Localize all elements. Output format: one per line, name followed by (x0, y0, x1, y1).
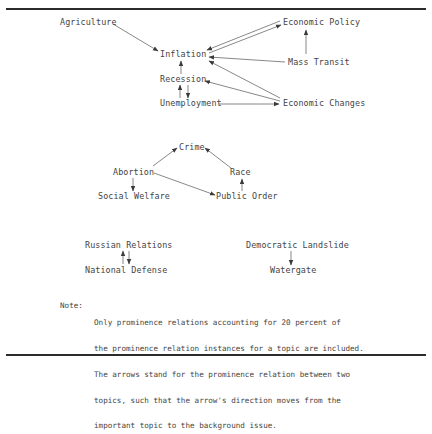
arrow-masstransit-inflation (209, 57, 285, 62)
arrow-inflation-economicpolicy (209, 25, 281, 53)
node-democratic-landslide: Democratic Landslide (246, 240, 349, 250)
node-unemployment: Unemployment (160, 98, 222, 108)
node-abortion: Abortion (113, 167, 154, 177)
node-agriculture: Agriculture (60, 17, 117, 27)
note-label: Note: (60, 302, 83, 311)
node-social-welfare: Social Welfare (98, 191, 170, 201)
node-public-order: Public Order (216, 191, 278, 201)
note-line: Only prominence relations accounting for… (94, 319, 364, 328)
note-line: important topic to the background issue. (94, 422, 364, 431)
note-line: topics, such that the arrow's direction … (94, 397, 364, 406)
node-crime: Crime (179, 142, 205, 152)
note-body: Only prominence relations accounting for… (94, 302, 364, 434)
node-russian-relations: Russian Relations (85, 240, 172, 250)
bottom-rule (6, 354, 426, 356)
node-mass-transit: Mass Transit (288, 57, 350, 67)
note-line: the prominence relation instances for a … (94, 345, 364, 354)
arrow-abortion-crime (153, 148, 177, 166)
note-line: The arrows stand for the prominence rela… (94, 371, 364, 380)
arrow-economicchanges-inflation (209, 61, 280, 98)
arrow-economicpolicy-inflation (207, 21, 280, 50)
arrow-agriculture-inflation (113, 24, 158, 51)
node-watergate: Watergate (270, 265, 316, 275)
node-economic-changes: Economic Changes (283, 98, 365, 108)
node-race: Race (230, 167, 251, 177)
node-national-defense: National Defense (85, 265, 167, 275)
node-recession: Recession (160, 74, 206, 84)
node-inflation: Inflation (160, 49, 206, 59)
arrow-race-crime (205, 148, 231, 168)
node-economic-policy: Economic Policy (283, 17, 360, 27)
